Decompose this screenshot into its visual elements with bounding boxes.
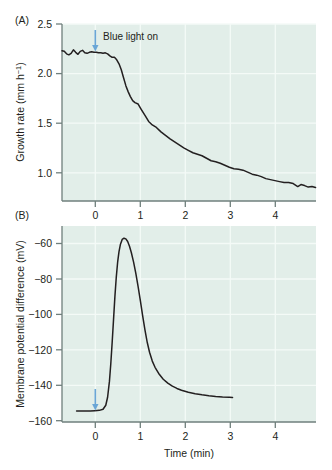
- panel-a-ytick-1: 2.0: [37, 67, 52, 79]
- panel-b-x-axis-title: Time (min): [164, 447, 214, 459]
- panel-b-y-axis-title: Membrane potential difference (mV): [14, 240, 26, 407]
- panel-a-xtick-1: 1: [137, 209, 143, 221]
- blue-light-on-label: Blue light on: [103, 31, 158, 42]
- panel-b-ytick-5: −160: [28, 415, 52, 427]
- panel-b-label: (B): [15, 209, 29, 221]
- panel-b-ytick-3: −120: [28, 344, 52, 356]
- panel-b-xtick-1: 1: [137, 430, 143, 442]
- panel-a-y-axis-title-superscript: −1: [14, 66, 23, 74]
- panel-b-xtick-0: 0: [92, 430, 98, 442]
- panel-a-ytick-2: 1.5: [37, 117, 52, 129]
- panel-a-xtick-3: 3: [227, 209, 233, 221]
- panel-a-label: (A): [15, 14, 29, 26]
- panel-b-ytick-1: −80: [34, 273, 52, 285]
- panel-a-xtick-2: 2: [182, 209, 188, 221]
- panel-a-y-axis-title-main: Growth rate (mm h: [14, 74, 26, 162]
- panel-a-ytick-0: 2.5: [37, 18, 52, 30]
- panel-b-ytick-0: −60: [34, 237, 52, 249]
- panel-a-y-axis-title: Growth rate (mm h−1): [14, 62, 26, 161]
- panel-b-ytick-2: −100: [28, 308, 52, 320]
- figure-root: (A): [0, 0, 332, 470]
- panel-b-xtick-2: 2: [182, 430, 188, 442]
- panel-a-xtick-4: 4: [272, 209, 278, 221]
- panel-a-ytick-3: 1.0: [37, 167, 52, 179]
- panel-a-xtick-0: 0: [92, 209, 98, 221]
- panel-a-plot-background: [62, 24, 316, 201]
- panel-b-xtick-3: 3: [227, 430, 233, 442]
- panel-a-y-axis-title-close: ): [14, 62, 26, 66]
- panel-b-xtick-4: 4: [272, 430, 278, 442]
- panel-b-ytick-4: −140: [28, 379, 52, 391]
